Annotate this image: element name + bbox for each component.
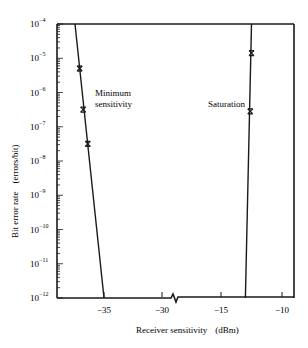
plot-frame — [57, 24, 294, 302]
minimum-sensitivity-marker — [81, 107, 86, 112]
y-tick-label: 10−10 — [30, 223, 48, 235]
x-tick-label: −15 — [214, 305, 229, 315]
x-tick-label: −10 — [275, 305, 290, 315]
y-tick-label: 10−6 — [30, 86, 45, 98]
series-group — [75, 24, 254, 298]
y-tick-labels: 10−410−510−610−710−810−910−1010−1110−12 — [30, 17, 48, 303]
annotation-saturation: Saturation — [208, 99, 245, 109]
y-tick-label: 10−7 — [30, 120, 45, 132]
annotation-sensitivity: sensitivity — [95, 99, 133, 109]
y-tick-label: 10−5 — [30, 51, 45, 63]
x-tick-label: −30 — [155, 305, 170, 315]
annotation-minimum: Minimum — [95, 88, 131, 98]
x-ticks: −35−30−15−10 — [97, 292, 290, 315]
x-axis-line — [57, 294, 294, 302]
y-axis-title: Bit error rate(errors/bit) — [10, 145, 20, 238]
saturation-line — [245, 24, 251, 298]
ber-chart: 10−410−510−610−710−810−910−1010−1110−12 … — [0, 0, 308, 348]
y-tick-label: 10−4 — [30, 17, 45, 29]
y-tick-label: 10−8 — [30, 154, 45, 166]
x-axis-title: Receiver sensitivity(dBm) — [136, 325, 239, 335]
y-tick-label: 10−12 — [30, 291, 48, 303]
y-minor-ticks — [57, 24, 63, 298]
minimum-sensitivity-line — [75, 24, 104, 298]
x-tick-label: −35 — [97, 305, 112, 315]
y-tick-label: 10−11 — [30, 257, 48, 269]
y-tick-label: 10−9 — [30, 188, 45, 200]
